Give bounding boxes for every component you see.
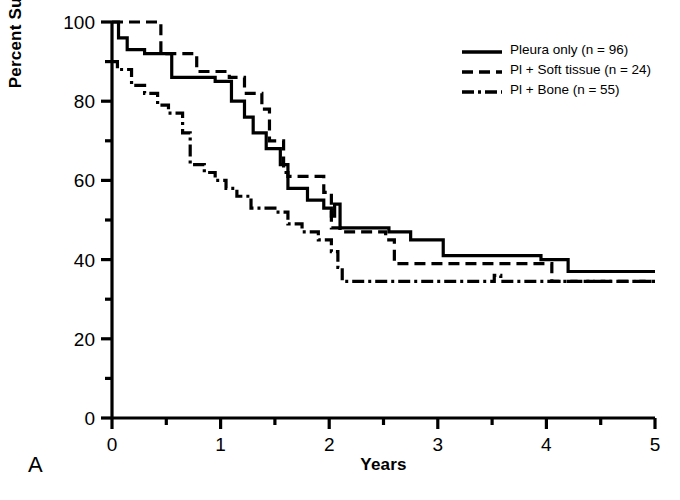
y-tick-label: 80 xyxy=(74,91,95,112)
legend-label: Pleura only (n = 96) xyxy=(510,40,628,60)
x-tick-label: 1 xyxy=(215,434,226,455)
legend-key-solid xyxy=(462,44,502,56)
survival-chart-figure: 012345020406080100 Percent Survival Year… xyxy=(0,0,680,500)
x-axis-title-wrap: Years xyxy=(112,455,655,475)
y-tick-label: 100 xyxy=(63,12,95,33)
x-axis-title: Years xyxy=(360,455,406,474)
y-tick-label: 40 xyxy=(74,250,95,271)
x-tick-label: 4 xyxy=(541,434,552,455)
legend-key-dashed xyxy=(462,64,502,76)
legend-row-1: Pl + Soft tissue (n = 24) xyxy=(462,60,651,80)
legend-label: Pl + Bone (n = 55) xyxy=(510,80,620,100)
x-tick-label: 5 xyxy=(650,434,661,455)
legend-row-2: Pl + Bone (n = 55) xyxy=(462,80,651,100)
y-axis-title-wrap: Percent Survival xyxy=(6,0,26,120)
y-tick-label: 20 xyxy=(74,329,95,350)
chart-legend: Pleura only (n = 96)Pl + Soft tissue (n … xyxy=(462,40,651,100)
y-tick-label: 60 xyxy=(74,170,95,191)
x-tick-label: 0 xyxy=(107,434,118,455)
legend-key-dashdot xyxy=(462,84,502,96)
legend-row-0: Pleura only (n = 96) xyxy=(462,40,651,60)
panel-label: A xyxy=(28,452,43,478)
y-tick-label: 0 xyxy=(84,408,95,429)
y-axis-title: Percent Survival xyxy=(6,0,26,88)
x-tick-label: 3 xyxy=(433,434,444,455)
legend-label: Pl + Soft tissue (n = 24) xyxy=(510,60,651,80)
x-tick-label: 2 xyxy=(324,434,335,455)
